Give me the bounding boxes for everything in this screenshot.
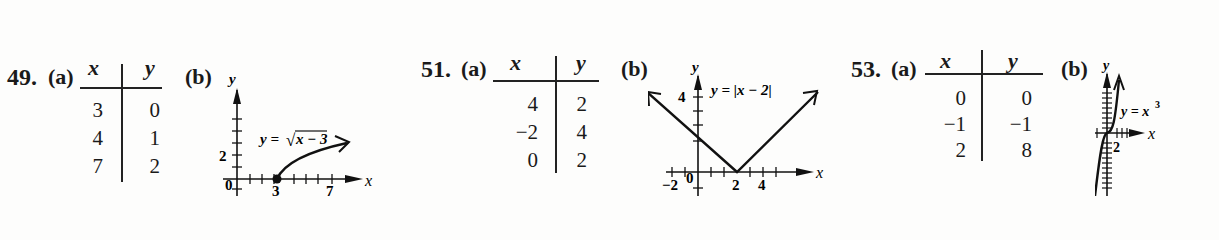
column-header-x: x xyxy=(940,48,951,74)
table-cell: −2 xyxy=(500,120,538,145)
svg-text:3: 3 xyxy=(1155,99,1160,110)
y-axis-arrow-icon xyxy=(694,74,702,90)
svg-text:4: 4 xyxy=(678,89,686,105)
column-header-y: y xyxy=(1008,48,1018,74)
problem-number: 49. xyxy=(7,64,37,91)
table-cell: 2 xyxy=(930,138,966,163)
table-cell: 0 xyxy=(996,86,1032,111)
svg-text:x: x xyxy=(1147,125,1155,142)
svg-text:x − 3: x − 3 xyxy=(295,131,328,147)
table-cell: 8 xyxy=(996,138,1032,163)
table-cell: 2 xyxy=(573,148,587,173)
svg-text:y = x: y = x xyxy=(1119,104,1149,119)
table-column-divider xyxy=(981,50,983,161)
svg-text:√: √ xyxy=(286,131,296,150)
x-axis-arrow-icon xyxy=(345,175,363,183)
svg-text:2: 2 xyxy=(732,177,740,193)
svg-text:y: y xyxy=(227,76,236,87)
svg-text:x: x xyxy=(364,172,372,189)
table-cell: 2 xyxy=(146,154,160,179)
problem-number: 51. xyxy=(421,56,451,83)
part-b-label: (b) xyxy=(185,64,212,90)
part-a-label: (a) xyxy=(461,56,487,82)
part-b-label: (b) xyxy=(1061,56,1088,82)
svg-text:3: 3 xyxy=(272,183,280,196)
column-header-y: y xyxy=(145,55,155,81)
table-cell: 4 xyxy=(89,126,103,151)
table-cell: −1 xyxy=(996,112,1032,137)
sqrt-graph: y x 2 0 3 7 y = √ x − 3 xyxy=(215,76,375,196)
svg-text:2: 2 xyxy=(219,148,227,164)
column-header-x: x xyxy=(88,55,99,81)
svg-text:0: 0 xyxy=(686,170,694,186)
part-a-label: (a) xyxy=(48,64,74,90)
svg-text:x: x xyxy=(815,164,823,181)
svg-text:y: y xyxy=(690,62,699,75)
svg-text:7: 7 xyxy=(326,183,334,196)
problem-number: 53. xyxy=(851,56,881,83)
svg-text:y: y xyxy=(1101,62,1110,73)
table-column-divider xyxy=(555,56,557,173)
table-cell: 2 xyxy=(573,92,587,117)
column-header-y: y xyxy=(576,50,586,76)
svg-text:4: 4 xyxy=(758,177,766,193)
x-axis-arrow-icon xyxy=(796,168,814,176)
table-cell: 1 xyxy=(146,126,160,151)
table-cell: 4 xyxy=(573,120,587,145)
table-cell: 0 xyxy=(146,98,160,123)
svg-text:−2: −2 xyxy=(662,177,678,193)
table-column-divider xyxy=(121,64,123,182)
x-axis-arrow-icon xyxy=(1129,129,1145,137)
svg-text:0: 0 xyxy=(225,177,233,193)
svg-text:y = |x − 2|: y = |x − 2| xyxy=(709,82,772,98)
part-b-label: (b) xyxy=(621,56,648,82)
table-cell: 0 xyxy=(930,86,966,111)
table-cell: 7 xyxy=(89,154,103,179)
table-cell: 0 xyxy=(500,148,538,173)
absolute-value-graph: y x 4 0 −2 2 4 y = |x − 2| xyxy=(648,62,828,196)
table-cell: 4 xyxy=(500,92,538,117)
y-axis-arrow-icon xyxy=(233,88,241,104)
y-axis-arrow-icon xyxy=(1103,72,1111,88)
cubic-graph: y 8 x 2 y = x 3 xyxy=(1095,62,1219,196)
table-header-rule xyxy=(925,73,1043,75)
table-cell: 3 xyxy=(89,98,103,123)
svg-text:y =: y = xyxy=(258,131,279,147)
table-header-rule xyxy=(493,80,599,82)
svg-text:2: 2 xyxy=(1113,140,1120,155)
table-cell: −1 xyxy=(930,112,966,137)
column-header-x: x xyxy=(510,50,521,76)
part-a-label: (a) xyxy=(891,56,917,82)
